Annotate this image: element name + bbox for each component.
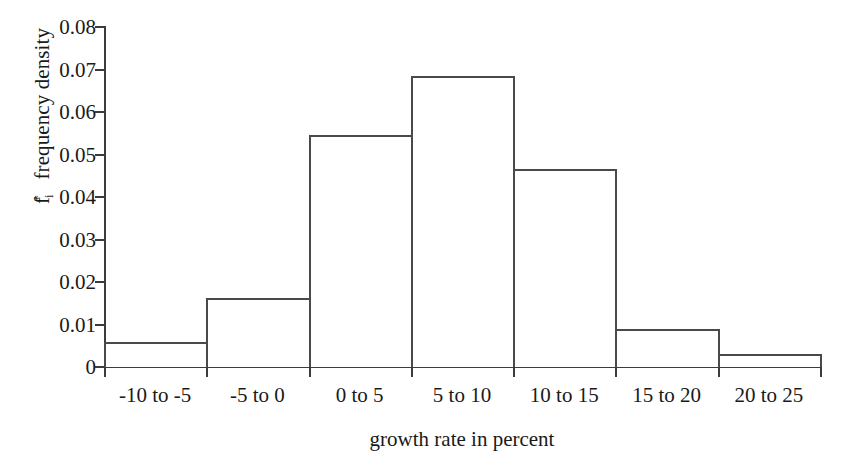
- histogram-figure: fi* frequency density 00.010.020.030.040…: [0, 0, 850, 463]
- histogram-bars: [104, 27, 820, 367]
- y-axis-tick-label: 0: [28, 357, 96, 378]
- histogram-bar: [309, 135, 413, 367]
- x-axis-tick-mark: [615, 367, 617, 377]
- y-axis-tick-mark: [95, 196, 104, 198]
- histogram-bar: [104, 342, 208, 368]
- x-axis-tick-mark: [513, 367, 515, 377]
- x-axis-tick-labels: -10 to -5-5 to 00 to 55 to 1010 to 1515 …: [104, 380, 820, 414]
- x-axis-tick-label: 20 to 25: [734, 380, 803, 410]
- y-axis-tick-mark: [95, 26, 104, 28]
- y-axis-tick-label: 0.03: [28, 229, 96, 250]
- y-axis-tick-label: 0.06: [28, 102, 96, 123]
- x-axis-tick-mark: [820, 367, 822, 377]
- y-axis-tick-label: 0.08: [28, 17, 96, 38]
- histogram-bar: [615, 329, 719, 367]
- y-axis-tick-mark: [95, 324, 104, 326]
- y-axis-tick-mark: [95, 239, 104, 241]
- plot-area: [104, 27, 820, 367]
- x-axis-tick-mark: [206, 367, 208, 377]
- y-axis-tick-mark: [95, 69, 104, 71]
- y-axis-tick-label: 0.04: [28, 187, 96, 208]
- x-axis-tick-mark: [718, 367, 720, 377]
- x-axis-tick-mark: [104, 367, 106, 377]
- x-axis-tick-mark: [411, 367, 413, 377]
- y-axis-tick-label: 0.05: [28, 144, 96, 165]
- y-axis-tick-mark: [95, 111, 104, 113]
- x-axis-tick-label: 0 to 5: [336, 380, 384, 410]
- x-axis-title: growth rate in percent: [104, 425, 820, 453]
- x-axis-tick-label: -5 to 0: [230, 380, 285, 410]
- y-axis-tick-label: 0.01: [28, 314, 96, 335]
- x-axis-tick-label: 15 to 20: [632, 380, 701, 410]
- y-axis-tick-mark: [95, 366, 104, 368]
- y-axis-tick-label: 0.02: [28, 272, 96, 293]
- histogram-bar: [513, 169, 617, 367]
- x-axis-tick-label: 5 to 10: [433, 380, 491, 410]
- x-axis-tick-mark: [309, 367, 311, 377]
- y-axis-tick-mark: [95, 154, 104, 156]
- histogram-bar: [411, 76, 515, 367]
- histogram-bar: [718, 354, 822, 367]
- y-axis-tick-mark: [95, 281, 104, 283]
- y-axis-tick-labels: 00.010.020.030.040.050.060.070.08: [28, 0, 96, 463]
- y-axis-tick-label: 0.07: [28, 59, 96, 80]
- histogram-bar: [206, 298, 310, 367]
- x-axis-tick-label: 10 to 15: [530, 380, 599, 410]
- x-axis-tick-label: -10 to -5: [119, 380, 191, 410]
